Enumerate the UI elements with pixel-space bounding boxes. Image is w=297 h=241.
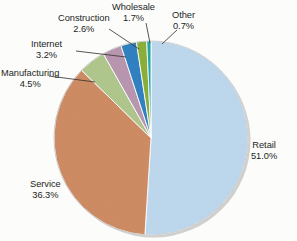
- slice-label-retail-name: Retail: [251, 140, 277, 151]
- pie-chart-svg: [0, 0, 297, 241]
- slice-label-internet-percent: 3.2%: [31, 50, 62, 61]
- slice-label-manufacturing-percent: 4.5%: [1, 79, 59, 90]
- slice-label-internet-name: Internet: [31, 39, 62, 50]
- slice-label-service-percent: 36.3%: [30, 190, 61, 201]
- slice-label-construction-name: Construction: [58, 13, 110, 24]
- slice-label-manufacturing: Manufacturing 4.5%: [1, 68, 59, 89]
- slice-label-internet: Internet 3.2%: [31, 39, 62, 60]
- pie-chart-figure: Manufacturing 4.5% Internet 3.2% Constru…: [0, 0, 297, 241]
- slice-label-wholesale-percent: 1.7%: [112, 13, 155, 24]
- leader-line-other: [162, 30, 177, 44]
- slice-label-other-percent: 0.7%: [172, 21, 195, 32]
- pie-slice-retail[interactable]: [145, 41, 248, 235]
- slice-label-wholesale: Wholesale 1.7%: [112, 2, 155, 23]
- slice-label-other: Other 0.7%: [172, 10, 195, 31]
- slice-label-construction-percent: 2.6%: [58, 24, 110, 35]
- slice-label-other-name: Other: [172, 10, 195, 21]
- slice-label-wholesale-name: Wholesale: [112, 2, 155, 13]
- pie-slice-group: [54, 41, 248, 235]
- slice-label-service: Service 36.3%: [30, 179, 61, 200]
- pie-chart-canvas: [0, 0, 297, 241]
- slice-label-construction: Construction 2.6%: [58, 13, 110, 34]
- slice-label-manufacturing-name: Manufacturing: [1, 68, 59, 79]
- leader-line-wholesale: [146, 23, 150, 43]
- slice-label-service-name: Service: [30, 179, 61, 190]
- slice-label-retail-percent: 51.0%: [251, 151, 277, 162]
- slice-label-retail: Retail 51.0%: [251, 140, 277, 161]
